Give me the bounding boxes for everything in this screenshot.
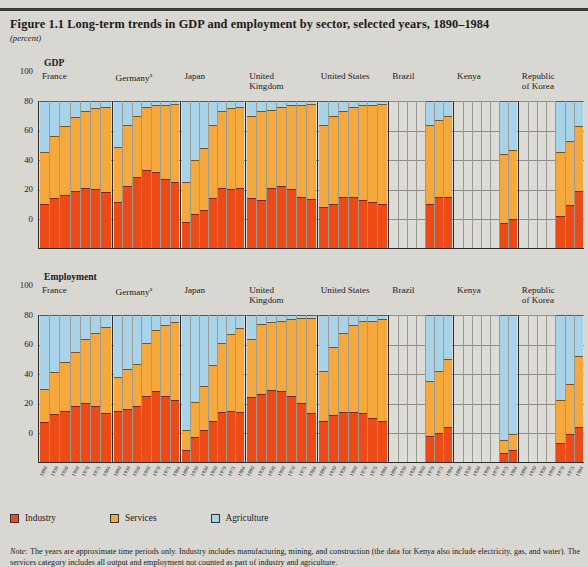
stacked-bar[interactable] bbox=[378, 315, 387, 462]
stacked-bar[interactable] bbox=[349, 315, 358, 462]
panel-title: United States bbox=[321, 285, 370, 295]
bar-group bbox=[181, 101, 245, 248]
stacked-bar[interactable] bbox=[218, 101, 226, 248]
stacked-bar[interactable] bbox=[359, 101, 368, 248]
stacked-bar[interactable] bbox=[101, 101, 110, 248]
stacked-bar[interactable] bbox=[133, 315, 142, 462]
stacked-bar[interactable] bbox=[236, 101, 244, 248]
stacked-bar[interactable] bbox=[171, 101, 180, 248]
stacked-bar[interactable] bbox=[444, 315, 452, 462]
bar-slot bbox=[509, 315, 517, 462]
stacked-bar[interactable] bbox=[319, 315, 328, 462]
panel-title: Japan bbox=[184, 285, 205, 295]
stacked-bar[interactable] bbox=[556, 315, 564, 462]
stacked-bar[interactable] bbox=[556, 101, 564, 248]
stacked-bar[interactable] bbox=[339, 101, 348, 248]
bar-slot bbox=[520, 101, 529, 248]
stacked-bar[interactable] bbox=[329, 101, 338, 248]
stacked-bar[interactable] bbox=[247, 101, 256, 248]
stacked-bar[interactable] bbox=[227, 101, 235, 248]
stacked-bar[interactable] bbox=[191, 101, 199, 248]
stacked-bar[interactable] bbox=[287, 315, 296, 462]
stacked-bar[interactable] bbox=[152, 101, 161, 248]
stacked-bar[interactable] bbox=[435, 101, 443, 248]
stacked-bar[interactable] bbox=[509, 101, 517, 248]
bar-slot bbox=[500, 315, 509, 462]
stacked-bar[interactable] bbox=[575, 315, 583, 462]
stacked-bar[interactable] bbox=[566, 101, 574, 248]
stacked-bar[interactable] bbox=[123, 101, 132, 248]
stacked-bar[interactable] bbox=[40, 315, 49, 462]
x-tick: 1890 bbox=[38, 464, 49, 490]
stacked-bar[interactable] bbox=[368, 315, 377, 462]
stacked-bar[interactable] bbox=[182, 101, 190, 248]
stacked-bar[interactable] bbox=[81, 315, 90, 462]
stacked-bar[interactable] bbox=[566, 315, 574, 462]
stacked-bar[interactable] bbox=[209, 101, 217, 248]
stacked-bar[interactable] bbox=[444, 101, 452, 248]
stacked-bar[interactable] bbox=[297, 101, 306, 248]
stacked-bar[interactable] bbox=[359, 315, 368, 462]
stacked-bar[interactable] bbox=[50, 315, 59, 462]
stacked-bar[interactable] bbox=[297, 315, 306, 462]
stacked-bar[interactable] bbox=[142, 101, 151, 248]
stacked-bar[interactable] bbox=[171, 315, 180, 462]
stacked-bar[interactable] bbox=[500, 101, 508, 248]
stacked-bar[interactable] bbox=[426, 315, 434, 462]
stacked-bar[interactable] bbox=[368, 101, 377, 248]
stacked-bar[interactable] bbox=[509, 315, 517, 462]
bar-segment-ind bbox=[218, 188, 226, 248]
stacked-bar[interactable] bbox=[191, 315, 199, 462]
stacked-bar[interactable] bbox=[500, 315, 508, 462]
stacked-bar[interactable] bbox=[287, 101, 296, 248]
stacked-bar[interactable] bbox=[71, 101, 80, 248]
stacked-bar[interactable] bbox=[378, 101, 387, 248]
stacked-bar[interactable] bbox=[200, 101, 208, 248]
stacked-bar[interactable] bbox=[277, 315, 286, 462]
stacked-bar[interactable] bbox=[435, 315, 443, 462]
stacked-bar[interactable] bbox=[277, 101, 286, 248]
stacked-bar[interactable] bbox=[227, 315, 235, 462]
stacked-bar[interactable] bbox=[209, 315, 217, 462]
stacked-bar[interactable] bbox=[40, 101, 49, 248]
stacked-bar[interactable] bbox=[218, 315, 226, 462]
stacked-bar[interactable] bbox=[247, 315, 256, 462]
stacked-bar[interactable] bbox=[307, 315, 316, 462]
stacked-bar[interactable] bbox=[101, 315, 110, 462]
stacked-bar[interactable] bbox=[307, 101, 316, 248]
stacked-bar[interactable] bbox=[60, 315, 69, 462]
stacked-bar[interactable] bbox=[91, 315, 100, 462]
stacked-bar[interactable] bbox=[257, 101, 266, 248]
stacked-bar[interactable] bbox=[267, 101, 276, 248]
stacked-bar[interactable] bbox=[329, 315, 338, 462]
stacked-bar[interactable] bbox=[142, 315, 151, 462]
bar-segment-serv bbox=[60, 126, 69, 195]
bar-slot bbox=[209, 315, 218, 462]
stacked-bar[interactable] bbox=[152, 315, 161, 462]
stacked-bar[interactable] bbox=[81, 101, 90, 248]
stacked-bar[interactable] bbox=[91, 101, 100, 248]
stacked-bar[interactable] bbox=[114, 101, 123, 248]
stacked-bar[interactable] bbox=[267, 315, 276, 462]
stacked-bar[interactable] bbox=[200, 315, 208, 462]
x-tick-label: 1960 bbox=[348, 465, 358, 477]
stacked-bar[interactable] bbox=[339, 315, 348, 462]
x-tick-label: 1960 bbox=[276, 465, 286, 477]
stacked-bar[interactable] bbox=[114, 315, 123, 462]
stacked-bar[interactable] bbox=[182, 315, 190, 462]
stacked-bar[interactable] bbox=[50, 101, 59, 248]
stacked-bar[interactable] bbox=[257, 315, 266, 462]
stacked-bar[interactable] bbox=[60, 101, 69, 248]
stacked-bar[interactable] bbox=[575, 101, 583, 248]
stacked-bar[interactable] bbox=[426, 101, 434, 248]
stacked-bar[interactable] bbox=[236, 315, 244, 462]
stacked-bar[interactable] bbox=[161, 101, 170, 248]
stacked-bar[interactable] bbox=[161, 315, 170, 462]
stacked-bar[interactable] bbox=[319, 101, 328, 248]
stacked-bar[interactable] bbox=[71, 315, 80, 462]
stacked-bar[interactable] bbox=[349, 101, 358, 248]
bar-segment-serv bbox=[200, 148, 208, 210]
stacked-bar[interactable] bbox=[123, 315, 132, 462]
bar-group bbox=[318, 315, 389, 462]
stacked-bar[interactable] bbox=[133, 101, 142, 248]
